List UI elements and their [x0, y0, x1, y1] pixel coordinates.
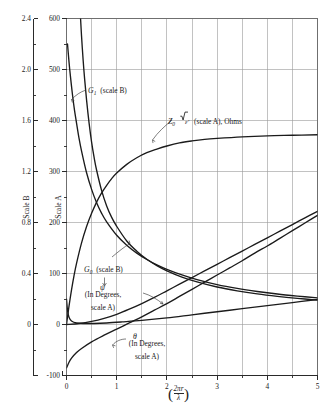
- svg-text:5: 5: [316, 382, 320, 391]
- svg-text:200: 200: [49, 218, 60, 227]
- svg-text:0.8: 0.8: [22, 218, 32, 227]
- figure-container: 6005004003002001000-100 2.42.01.61.20.80…: [0, 0, 332, 415]
- chart-background: [0, 0, 332, 415]
- svg-text:2.4: 2.4: [22, 14, 32, 23]
- svg-text:0: 0: [56, 320, 60, 329]
- svg-text:400: 400: [49, 116, 60, 125]
- svg-text:0: 0: [65, 382, 69, 391]
- svg-text:300: 300: [49, 167, 60, 176]
- svg-text:1.2: 1.2: [22, 167, 32, 176]
- svg-text:500: 500: [49, 65, 60, 74]
- svg-text:0.4: 0.4: [22, 269, 32, 278]
- svg-text:3: 3: [215, 382, 219, 391]
- svg-text:600: 600: [49, 14, 60, 23]
- svg-text:2: 2: [165, 382, 169, 391]
- chart-svg: 6005004003002001000-100 2.42.01.61.20.80…: [0, 0, 332, 415]
- svg-text:2.0: 2.0: [22, 65, 32, 74]
- svg-text:0: 0: [27, 320, 31, 329]
- svg-text:4: 4: [265, 382, 269, 391]
- svg-text:100: 100: [49, 269, 60, 278]
- svg-text:1.6: 1.6: [22, 116, 32, 125]
- svg-text:1: 1: [115, 382, 119, 391]
- svg-text:-100: -100: [46, 371, 60, 380]
